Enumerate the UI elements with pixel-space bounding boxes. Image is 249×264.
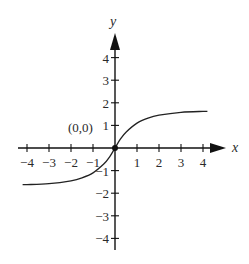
origin-label: (0,0)	[68, 120, 93, 135]
x-tick-label: −3	[42, 155, 56, 170]
x-tick-label: 2	[156, 155, 163, 170]
x-tick-label: −2	[64, 155, 78, 170]
x-tick-label: 3	[178, 155, 185, 170]
y-tick-label: 1	[103, 118, 110, 133]
origin-point	[112, 145, 118, 151]
x-tick-label: −4	[20, 155, 34, 170]
y-tick-label: −1	[95, 164, 109, 179]
axes	[18, 33, 226, 250]
x-tick-label: 4	[200, 155, 207, 170]
y-tick-label: −2	[95, 186, 109, 201]
y-axis-arrow-icon	[110, 33, 120, 50]
y-tick-label: 2	[103, 96, 110, 111]
y-tick-label: 3	[103, 73, 110, 88]
function-graph: −4−3−2−112344321−1−2−3−4 x y (0,0)	[0, 0, 249, 264]
y-tick-label: 4	[103, 51, 110, 66]
y-tick-label: −3	[95, 209, 109, 224]
y-tick-label: −4	[95, 231, 109, 246]
x-axis-label: x	[231, 140, 239, 155]
x-tick-label: 1	[134, 155, 141, 170]
y-axis-label: y	[108, 14, 117, 29]
x-axis-arrow-icon	[210, 143, 226, 153]
